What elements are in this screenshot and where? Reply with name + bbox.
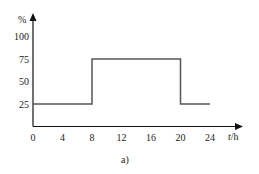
x-tick-label: 4: [60, 132, 65, 143]
x-tick-label: 0: [31, 132, 36, 143]
y-tick-label: 50: [19, 76, 29, 87]
step-chart: 255075100 04812162024 % t/h a): [0, 0, 259, 174]
step-series-line: [33, 59, 210, 104]
x-tick-label: 12: [117, 132, 127, 143]
y-tick-label: 100: [14, 31, 29, 42]
x-axis-arrow-icon: [235, 123, 243, 130]
y-tick-label: 25: [19, 99, 29, 110]
x-tick-label: 16: [146, 132, 156, 143]
axes: [30, 13, 244, 130]
y-tick-label: 75: [19, 54, 29, 65]
x-axis-unit: /h: [231, 131, 239, 142]
figure-caption: a): [121, 154, 129, 166]
y-tick-labels: 255075100: [14, 31, 29, 110]
x-tick-label: 20: [176, 132, 186, 143]
y-axis-arrow-icon: [30, 13, 37, 21]
x-tick-label: 8: [90, 132, 95, 143]
x-tick-labels: 04812162024: [31, 132, 216, 143]
x-axis-label: t/h: [228, 131, 239, 142]
x-tick-label: 24: [205, 132, 215, 143]
y-axis-label: %: [18, 14, 26, 25]
